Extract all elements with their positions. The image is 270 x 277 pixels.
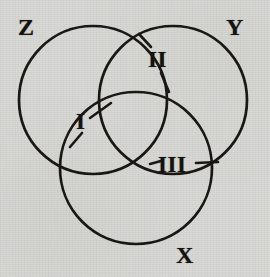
set-label-y: Y (226, 15, 243, 39)
set-label-x: X (176, 243, 193, 267)
region-label-i: I (76, 110, 85, 133)
region-label-ii: II (148, 48, 167, 71)
venn-diagram-figure: Z Y X I II III (0, 0, 270, 277)
region-label-iii: III (158, 153, 186, 176)
circle-z (19, 26, 167, 174)
leader-line-i-lower (70, 133, 82, 147)
set-label-z: Z (18, 15, 34, 39)
leader-line-iii-right (196, 162, 218, 163)
venn-diagram-canvas (0, 0, 270, 277)
